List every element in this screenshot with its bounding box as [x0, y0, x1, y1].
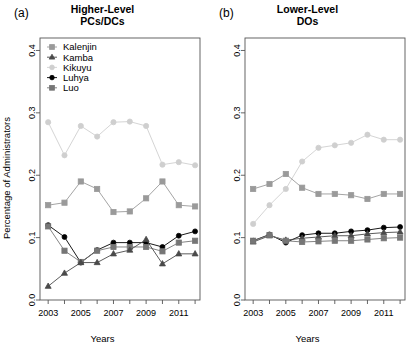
data-point — [95, 134, 100, 139]
data-point — [62, 235, 67, 240]
legend: KalenjinKambaKikuyuLuhyaLuo — [47, 41, 97, 93]
data-point — [46, 120, 51, 125]
legend-label: Luo — [63, 82, 79, 93]
panel-b-x-title: Years — [205, 333, 410, 344]
data-point — [251, 238, 256, 243]
data-point — [62, 248, 67, 253]
data-point — [50, 85, 55, 90]
panel-a-x-title: Years — [0, 333, 205, 344]
data-point — [267, 233, 272, 238]
x-tick-label: 2005 — [276, 308, 296, 318]
data-point — [332, 191, 337, 196]
data-point — [78, 179, 83, 184]
data-point — [349, 193, 354, 198]
data-point — [316, 145, 321, 150]
data-point — [111, 120, 116, 125]
data-point — [78, 123, 83, 128]
data-point — [144, 244, 149, 249]
data-point — [50, 75, 55, 80]
series-layer — [250, 132, 403, 245]
series-line-kikuyu — [253, 135, 400, 224]
x-tick-label: 2003 — [38, 308, 58, 318]
data-point — [50, 65, 55, 70]
data-point — [49, 54, 55, 59]
y-tick-label: 0.4 — [232, 44, 242, 57]
data-point — [62, 153, 67, 158]
data-point — [365, 196, 370, 201]
y-tick-label: 0.1 — [232, 231, 242, 244]
data-point — [283, 186, 288, 191]
series-line-luhya — [253, 227, 400, 243]
data-point — [349, 140, 354, 145]
data-point — [111, 244, 116, 249]
data-point — [349, 238, 354, 243]
data-point — [283, 171, 288, 176]
data-point — [61, 270, 67, 275]
data-point — [127, 119, 132, 124]
y-tick-label: 0.2 — [27, 169, 37, 182]
plot-frame — [245, 38, 405, 300]
x-tick-label: 2005 — [71, 308, 91, 318]
data-point — [398, 137, 403, 142]
x-tick-label: 2007 — [308, 308, 328, 318]
panel-b-plot: 0.00.10.20.30.420032005200720092011 — [205, 0, 410, 355]
data-point — [45, 283, 51, 288]
data-point — [398, 191, 403, 196]
x-tick-label: 2011 — [374, 308, 393, 318]
panel-a-plot: 0.00.10.20.30.420032005200720092011Kalen… — [0, 0, 205, 355]
data-point — [283, 238, 288, 243]
data-point — [176, 240, 181, 245]
data-point — [267, 181, 272, 186]
x-tick-label: 2009 — [341, 308, 361, 318]
x-tick-label: 2003 — [243, 308, 263, 318]
data-point — [160, 179, 165, 184]
data-point — [176, 160, 181, 165]
data-point — [316, 191, 321, 196]
data-point — [398, 235, 403, 240]
data-point — [365, 132, 370, 137]
y-tick-label: 0.0 — [232, 294, 242, 307]
data-point — [50, 45, 55, 50]
x-tick-label: 2009 — [136, 308, 156, 318]
data-point — [46, 203, 51, 208]
y-tick-label: 0.4 — [27, 44, 37, 57]
panel-b: (b) Lower-Level DOs 0.00.10.20.30.420032… — [205, 0, 410, 355]
y-tick-label: 0.3 — [232, 107, 242, 120]
data-point — [193, 204, 198, 209]
data-point — [160, 162, 165, 167]
data-point — [251, 221, 256, 226]
series-line-kalenjin — [48, 181, 195, 212]
data-point — [365, 237, 370, 242]
data-point — [192, 251, 198, 256]
data-point — [251, 186, 256, 191]
y-tick-label: 0.3 — [27, 107, 37, 120]
data-point — [193, 229, 198, 234]
data-point — [62, 200, 67, 205]
data-point — [176, 233, 181, 238]
data-point — [316, 239, 321, 244]
data-point — [160, 249, 165, 254]
data-point — [381, 229, 387, 234]
y-tick-label: 0.2 — [232, 169, 242, 182]
panel-a: (a) Higher-Level PCs/DCs 0.00.10.20.30.4… — [0, 0, 205, 355]
data-point — [193, 238, 198, 243]
x-tick-label: 2011 — [169, 308, 188, 318]
data-point — [176, 251, 182, 256]
data-point — [332, 143, 337, 148]
data-point — [127, 209, 132, 214]
y-tick-label: 0.0 — [27, 294, 37, 307]
data-point — [193, 163, 198, 168]
data-point — [300, 185, 305, 190]
data-point — [144, 123, 149, 128]
data-point — [332, 238, 337, 243]
data-point — [176, 203, 181, 208]
data-point — [111, 209, 116, 214]
data-point — [381, 137, 386, 142]
data-point — [95, 186, 100, 191]
data-point — [46, 224, 51, 229]
data-point — [300, 159, 305, 164]
data-point — [94, 259, 100, 264]
data-point — [144, 196, 149, 201]
data-point — [267, 203, 272, 208]
data-point — [143, 236, 149, 241]
